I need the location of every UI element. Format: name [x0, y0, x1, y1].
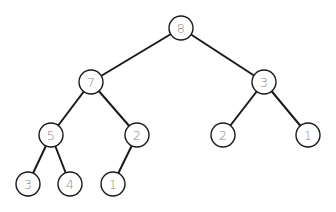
tree-edge	[91, 28, 181, 82]
tree-diagram: 8 7 3 5 2 2 1 3	[0, 0, 336, 212]
tree-node: 7	[79, 70, 103, 94]
node-label: 2	[133, 128, 141, 143]
tree-node-root: 8	[169, 16, 193, 40]
node-label: 1	[304, 128, 312, 143]
node-label: 5	[47, 128, 55, 143]
tree-node-leaf: 3	[16, 172, 40, 196]
tree-node: 1	[296, 123, 320, 147]
tree-node-leaf: 4	[58, 172, 82, 196]
nodes-layer: 8 7 3 5 2 2 1 3	[16, 16, 320, 196]
node-label: 2	[219, 128, 227, 143]
tree-node: 5	[39, 123, 63, 147]
tree-edge	[181, 28, 264, 82]
node-label: 4	[66, 177, 74, 192]
edges-layer	[28, 28, 308, 184]
node-label: 8	[177, 21, 185, 36]
tree-node-leaf: 1	[101, 172, 125, 196]
node-label: 3	[260, 75, 268, 90]
tree-node: 2	[125, 123, 149, 147]
tree-node: 2	[211, 123, 235, 147]
node-label: 1	[109, 177, 117, 192]
node-label: 3	[24, 177, 32, 192]
tree-node: 3	[252, 70, 276, 94]
node-label: 7	[87, 75, 95, 90]
